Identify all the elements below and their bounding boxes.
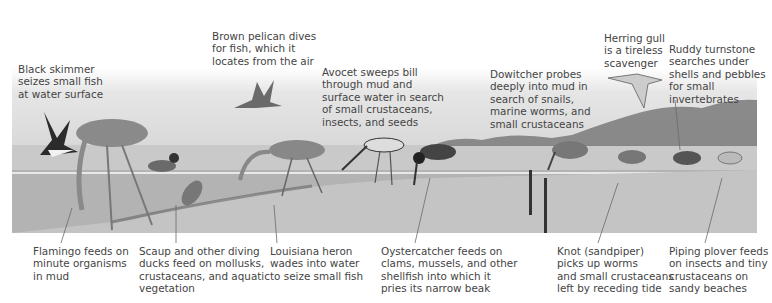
label-avocet: Avocet sweeps bill through mud and surfa… bbox=[322, 66, 444, 128]
label-ruddy-turnstone: Ruddy turnstone searches under shells an… bbox=[669, 43, 766, 105]
distant-hills bbox=[432, 100, 757, 146]
brown-pelican-bird bbox=[234, 80, 282, 108]
label-oystercatcher: Oystercatcher feeds on clams, mussels, a… bbox=[381, 245, 517, 295]
ruddy-turnstone-bird bbox=[673, 151, 701, 165]
knot-bird bbox=[618, 150, 646, 164]
scaup-duck-head bbox=[169, 153, 179, 163]
mudflat-slope bbox=[12, 170, 757, 233]
label-black-skimmer: Black skimmer seizes small fish at water… bbox=[18, 63, 103, 100]
piling-post bbox=[544, 178, 547, 233]
label-louisiana-heron: Louisiana heron wades into water to seiz… bbox=[270, 245, 363, 282]
avocet-bird bbox=[342, 138, 404, 185]
label-flamingo: Flamingo feeds on minute organisms in mu… bbox=[33, 245, 129, 282]
label-scaup: Scaup and other diving ducks feed on mol… bbox=[139, 245, 270, 295]
piping-plover-bird bbox=[718, 152, 742, 164]
label-piping-plover: Piping plover feeds on insects and tiny … bbox=[669, 245, 768, 295]
piling-post bbox=[529, 170, 532, 215]
label-herring-gull: Herring gull is a tireless scavenger bbox=[604, 32, 665, 69]
label-dowitcher: Dowitcher probes deeply into mud in sear… bbox=[490, 68, 591, 130]
label-knot: Knot (sandpiper) picks up worms and smal… bbox=[557, 245, 674, 295]
label-brown-pelican: Brown pelican dives for fish, which it l… bbox=[212, 30, 316, 67]
flamingo-bird bbox=[76, 119, 152, 230]
herring-gull-bird bbox=[608, 74, 662, 108]
black-skimmer-bird bbox=[40, 112, 78, 157]
